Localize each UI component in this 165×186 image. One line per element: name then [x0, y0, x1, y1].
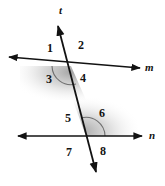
angle-label-8: 8: [100, 145, 106, 157]
line-label-t: t: [59, 5, 62, 16]
angle-label-4: 4: [80, 72, 86, 84]
geometry-diagram: t m n 1 2 3 4 5 6 7 8: [0, 0, 165, 186]
angle-label-6: 6: [99, 107, 105, 119]
angle-label-5: 5: [65, 112, 71, 124]
angle-label-1: 1: [47, 42, 53, 54]
line-label-m: m: [145, 62, 154, 73]
angle-label-2: 2: [78, 39, 84, 51]
angle-label-3: 3: [46, 73, 52, 85]
diagram-canvas: [0, 0, 165, 186]
line-label-n: n: [149, 130, 155, 141]
angle-shading-group: [20, 66, 138, 136]
angle-label-7: 7: [66, 146, 72, 158]
